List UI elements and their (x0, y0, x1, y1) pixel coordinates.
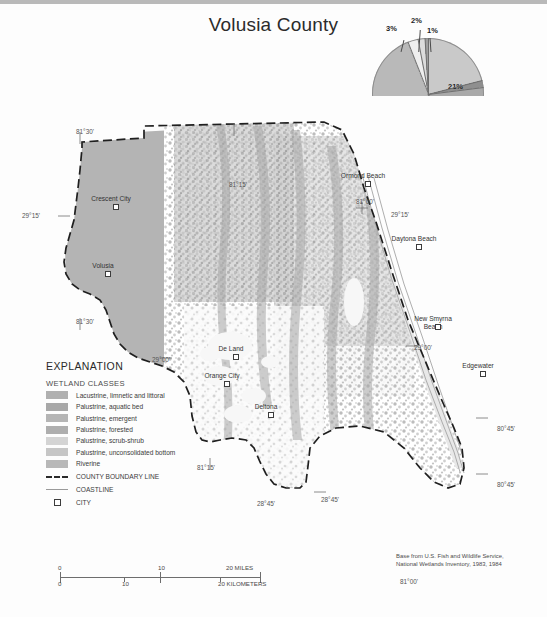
legend-class-label: Palustrine, unconsolidated bottom (76, 449, 175, 456)
map-symbol-legend: COUNTY BOUNDARY LINECOASTLINECITY (46, 473, 246, 507)
graticule-label: 81°00' (356, 198, 374, 206)
city-label: New Smyrna Beach (407, 315, 459, 332)
legend-symbol-label: COASTLINE (76, 486, 113, 493)
scale-bar-miles-label: 20 MILES (226, 564, 253, 571)
city-label: Ormond Beach (337, 172, 389, 180)
legend-color-swatch (46, 426, 68, 434)
explanation-subheading: WETLAND CLASSES (46, 379, 246, 388)
legend-class-row: Palustrine, forested (46, 426, 246, 434)
scale-bar-miles-label: 10 (158, 564, 165, 571)
legend-class-label: Palustrine, aquatic bed (76, 403, 143, 410)
city-marker (113, 204, 119, 210)
legend-class-row: Palustrine, scrub-shrub (46, 437, 246, 445)
legend-class-row: Lacustrine, limnetic and littoral (46, 391, 246, 399)
legend-class-row: Palustrine, unconsolidated bottom (46, 448, 246, 456)
scan-edge-bottom (0, 2, 547, 4)
wetland-class-legend: Lacustrine, limnetic and littoralPalustr… (46, 391, 246, 467)
explanation-heading: EXPLANATION (46, 360, 246, 372)
graticule-label: 81°30' (76, 128, 94, 136)
graticule-label: 80°45' (497, 425, 515, 433)
legend-class-row: Palustrine, emergent (46, 414, 246, 422)
graticule-label: 81°00' (400, 578, 418, 586)
city-symbol (54, 499, 61, 506)
source-credit: Base from U.S. Fish and Wildlife Service… (396, 552, 504, 568)
legend-color-swatch (46, 414, 68, 422)
legend-symbol-row: COASTLINE (46, 486, 246, 494)
legend-color-swatch (46, 460, 68, 468)
scale-bar-tick (160, 572, 161, 583)
legend-symbol-label: COUNTY BOUNDARY LINE (76, 473, 159, 480)
map-title: Volusia County (0, 14, 547, 36)
credit-line-2: National Wetlands Inventory, 1983, 1984 (396, 560, 504, 568)
legend-color-swatch (46, 391, 68, 399)
map-page: Volusia County 21%2%14%57%3%2%1% (0, 0, 547, 617)
legend-symbol-glyph (46, 486, 68, 494)
pie-slice-label: 3% (386, 24, 397, 33)
legend-symbol-glyph (46, 473, 68, 481)
graticule-label: 81°30' (76, 318, 94, 326)
legend-class-label: Palustrine, emergent (76, 415, 137, 422)
city-label: Volusia (77, 262, 129, 270)
legend-color-swatch (46, 403, 68, 411)
scale-bar-km-tick (60, 577, 61, 582)
city-marker (416, 244, 422, 250)
city-marker (105, 271, 111, 277)
legend-class-row: Riverine (46, 460, 246, 468)
explanation-block: EXPLANATION WETLAND CLASSES Lacustrine, … (46, 360, 246, 507)
city-label: De Land (205, 345, 257, 353)
city-label: Deltona (240, 403, 292, 411)
legend-class-label: Lacustrine, limnetic and littoral (76, 392, 165, 399)
legend-class-label: Palustrine, forested (76, 426, 133, 433)
pie-slice-label: 1% (427, 26, 438, 35)
graticule-label: 28°45' (257, 500, 275, 508)
city-label: Edgewater (452, 362, 504, 370)
graticule-label: 81°15' (229, 181, 247, 189)
city-marker (480, 371, 486, 377)
legend-symbol-row: COUNTY BOUNDARY LINE (46, 473, 246, 481)
pie-slice-label: 2% (411, 16, 422, 25)
legend-class-row: Palustrine, aquatic bed (46, 403, 246, 411)
city-marker (365, 181, 371, 187)
city-label: Daytona Beach (388, 235, 440, 243)
legend-symbol-glyph (46, 499, 68, 507)
county-boundary-symbol (46, 476, 68, 478)
scale-bar-miles-label: 0 (58, 564, 61, 571)
graticule-label: 28°45' (321, 496, 339, 504)
scale-bar-km-tick (124, 577, 125, 582)
city-marker (435, 324, 441, 330)
city-marker (268, 412, 274, 418)
legend-symbol-label: CITY (76, 499, 91, 506)
legend-color-swatch (46, 437, 68, 445)
graticule-label: 29°15' (22, 212, 40, 220)
scale-bar-km-tick (220, 577, 221, 582)
legend-class-label: Palustrine, scrub-shrub (76, 437, 144, 444)
legend-color-swatch (46, 448, 68, 456)
city-label: Crescent City (85, 195, 137, 203)
legend-symbol-row: CITY (46, 499, 246, 507)
legend-class-label: Riverine (76, 460, 100, 467)
coastline-symbol (46, 489, 68, 490)
graticule-label: 29°00' (414, 344, 432, 352)
graticule-label: 80°45' (497, 481, 515, 489)
scale-bar-kilometers-label: 20 KILOMETERS (218, 580, 267, 587)
credit-line-1: Base from U.S. Fish and Wildlife Service… (396, 552, 504, 560)
graticule-label: 29°15' (391, 211, 409, 219)
